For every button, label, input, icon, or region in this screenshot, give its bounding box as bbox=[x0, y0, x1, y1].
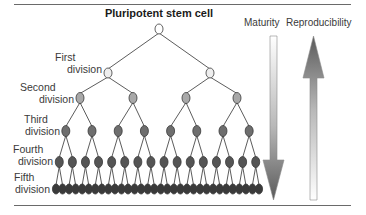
cell-node bbox=[229, 184, 236, 194]
stem-cell-node bbox=[155, 24, 163, 34]
cell-node bbox=[164, 184, 171, 194]
tree-nodes bbox=[52, 24, 262, 194]
cell-node bbox=[219, 126, 227, 137]
cell-node bbox=[157, 184, 164, 194]
cell-node bbox=[242, 184, 249, 194]
reproducibility-arrow-icon bbox=[303, 36, 324, 200]
cell-node bbox=[138, 184, 145, 194]
cell-node bbox=[226, 157, 234, 168]
maturity-arrow-icon bbox=[263, 36, 284, 200]
cell-node bbox=[182, 93, 190, 104]
lineage-tree bbox=[0, 0, 366, 215]
cell-node bbox=[76, 93, 84, 104]
cell-node bbox=[124, 184, 131, 194]
cell-node bbox=[55, 157, 63, 168]
cell-node bbox=[183, 184, 190, 194]
cell-node bbox=[52, 184, 59, 194]
cell-node bbox=[212, 157, 220, 168]
cell-node bbox=[216, 184, 223, 194]
cell-node bbox=[98, 184, 105, 194]
cell-node bbox=[114, 126, 122, 137]
cell-node bbox=[62, 126, 70, 137]
cell-node bbox=[190, 184, 197, 194]
cell-node bbox=[160, 157, 168, 168]
cell-node bbox=[79, 184, 86, 194]
cell-node bbox=[203, 184, 210, 194]
cell-node bbox=[134, 157, 142, 168]
cell-node bbox=[140, 126, 148, 137]
cell-node bbox=[170, 184, 177, 194]
cell-node bbox=[147, 157, 155, 168]
cell-node bbox=[144, 184, 151, 194]
cell-node bbox=[121, 157, 129, 168]
cell-node bbox=[186, 157, 194, 168]
cell-node bbox=[104, 68, 112, 78]
cell-node bbox=[236, 184, 243, 194]
cell-node bbox=[85, 184, 92, 194]
cell-node bbox=[245, 126, 253, 137]
cell-node bbox=[167, 126, 175, 137]
cell-node bbox=[233, 93, 241, 104]
cell-node bbox=[65, 184, 72, 194]
cell-node bbox=[223, 184, 230, 194]
cell-node bbox=[111, 184, 118, 194]
cell-node bbox=[177, 184, 184, 194]
cell-node bbox=[68, 157, 76, 168]
cell-node bbox=[59, 184, 66, 194]
cell-node bbox=[206, 68, 214, 78]
cell-node bbox=[199, 157, 207, 168]
cell-node bbox=[129, 93, 137, 104]
cell-node bbox=[196, 184, 203, 194]
cell-node bbox=[151, 184, 158, 194]
cell-node bbox=[81, 157, 89, 168]
cell-node bbox=[193, 126, 201, 137]
cell-node bbox=[118, 184, 125, 194]
cell-node bbox=[88, 126, 96, 137]
cell-node bbox=[95, 157, 103, 168]
cell-node bbox=[173, 157, 181, 168]
cell-node bbox=[210, 184, 217, 194]
cell-node bbox=[105, 184, 112, 194]
cell-node bbox=[249, 184, 256, 194]
cell-node bbox=[72, 184, 79, 194]
cell-node bbox=[108, 157, 116, 168]
cell-node bbox=[255, 184, 262, 194]
cell-node bbox=[252, 157, 260, 168]
cell-node bbox=[92, 184, 99, 194]
cell-node bbox=[131, 184, 138, 194]
cell-node bbox=[239, 157, 247, 168]
